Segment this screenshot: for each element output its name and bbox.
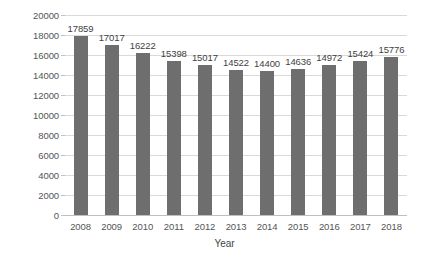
bar-slot: 14400 [252,15,283,215]
bar[interactable] [167,61,181,215]
bar-value-label: 16222 [130,40,156,51]
y-axis-tick-label: 0 [13,210,59,221]
bar-slot: 15424 [345,15,376,215]
y-axis-tick-label: 2000 [13,190,59,201]
y-axis-tick-label: 14000 [13,70,59,81]
y-axis-tick-label: 12000 [13,90,59,101]
y-axis-tick-label: 16000 [13,50,59,61]
bar-slot: 17859 [65,15,96,215]
bar-slot: 15398 [158,15,189,215]
x-axis-tick-label: 2016 [319,221,340,232]
bar-value-label: 14972 [316,52,342,63]
bar-slot: 14636 [283,15,314,215]
bar[interactable] [384,57,398,215]
bar-value-label: 15776 [378,44,404,55]
bar[interactable] [260,71,274,215]
y-axis-tick-label: 20000 [13,10,59,21]
bar-value-label: 14636 [285,56,311,67]
gridline [65,215,407,216]
bar[interactable] [74,36,88,215]
bar[interactable] [291,69,305,215]
x-axis-title-container: Year [0,238,427,249]
plot-area: 1785917017162221539815017145221440014636… [65,15,407,215]
bar[interactable] [353,61,367,215]
x-axis-tick-label: 2013 [226,221,247,232]
bar-value-label: 15398 [161,48,187,59]
y-axis-tick-label: 4000 [13,170,59,181]
bar[interactable] [136,53,150,215]
x-axis-tick-label: 2017 [350,221,371,232]
bar[interactable] [322,65,336,215]
y-axis-tick-label: 8000 [13,130,59,141]
y-axis-tick-label: 10000 [13,110,59,121]
x-axis-tick-label: 2014 [257,221,278,232]
x-axis-tick-label: 2011 [164,221,184,232]
x-axis-tick-label: 2015 [288,221,309,232]
y-axis-title-container: Number of concerts [0,15,1,215]
bar-slot: 14972 [314,15,345,215]
bar-value-label: 14522 [223,57,249,68]
bar-slot: 16222 [127,15,158,215]
x-axis-tick-label: 2010 [132,221,153,232]
x-axis-tick-label: 2018 [381,221,402,232]
bar[interactable] [229,70,243,215]
bar-chart: Number of concerts 020004000600080001000… [0,0,427,266]
bar-value-label: 14400 [254,58,280,69]
bar-value-label: 17859 [68,23,94,34]
bar[interactable] [198,65,212,215]
bar[interactable] [105,45,119,215]
bar-value-label: 15017 [192,52,218,63]
x-axis-tick-label: 2012 [195,221,216,232]
y-axis-tick-label: 18000 [13,30,59,41]
x-axis-tick-label: 2009 [101,221,122,232]
bar-slot: 15017 [189,15,220,215]
bar-value-label: 17017 [99,32,125,43]
bar-slot: 17017 [96,15,127,215]
bar-slot: 15776 [376,15,407,215]
bar-value-label: 15424 [347,48,373,59]
x-axis-tick-label: 2008 [70,221,91,232]
x-axis-title: Year [214,238,234,249]
bar-slot: 14522 [220,15,251,215]
y-axis-tick-label: 6000 [13,150,59,161]
